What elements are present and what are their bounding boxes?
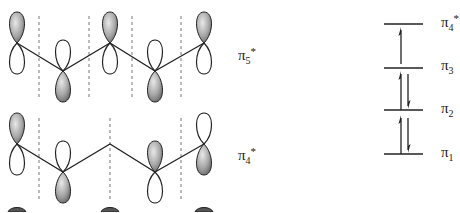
lobe-shaded [103, 12, 118, 43]
lobe-shaded [10, 12, 25, 43]
orbital-row-partial [8, 208, 213, 213]
orbital-label-pi5: π5* [238, 46, 256, 66]
orbital-row-pi5 [10, 12, 212, 102]
lobe-open [148, 40, 163, 71]
orbital-diagram [0, 0, 460, 212]
level-label-pi2: π2 [441, 101, 454, 119]
lobe-open [103, 43, 118, 74]
lobe-shaded [56, 71, 71, 102]
lobe-shaded [148, 71, 163, 102]
orbital-row-pi4 [10, 113, 212, 203]
lobe-open [56, 40, 71, 71]
lobe-open [197, 43, 212, 74]
energy-level-diagram [384, 24, 423, 154]
level-label-pi1: π1 [441, 145, 454, 163]
level-label-pi3: π3 [441, 58, 454, 76]
lobe-shaded [197, 12, 212, 43]
level-label-pi4star: π4* [441, 13, 459, 33]
lobe-open [10, 43, 25, 74]
orbital-label-pi4: π4* [238, 146, 256, 166]
